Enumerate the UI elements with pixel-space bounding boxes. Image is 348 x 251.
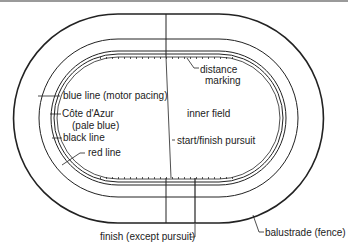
distance-marking-label: distance: [200, 64, 238, 75]
start-finish-pursuit-label: start/finish pursuit: [177, 135, 256, 146]
inner-field-label: inner field: [187, 108, 230, 119]
start-finish-pursuit-line: [166, 57, 171, 178]
distance-marking-leader: [187, 58, 199, 68]
cote-dazur-label: Côte d'Azur: [62, 108, 115, 119]
velodrome-diagram: distance marking blue line (motor pacing…: [0, 0, 348, 251]
cote-dazur-label-2: (pale blue): [72, 120, 119, 131]
distance-marking-label-2: marking: [205, 75, 241, 86]
red-line-label: red line: [88, 147, 121, 158]
balustrade-label: balustrade (fence): [265, 227, 346, 238]
finish-except-pursuit-label: finish (except pursuit): [100, 231, 195, 242]
black-line-label: black line: [63, 132, 105, 143]
blue-line-label: blue line (motor pacing): [63, 90, 168, 101]
